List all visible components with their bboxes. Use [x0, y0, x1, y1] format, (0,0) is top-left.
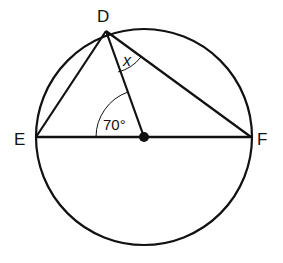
chord-DF — [106, 31, 251, 137]
center-point — [139, 132, 149, 142]
label-D: D — [97, 7, 109, 26]
angle-label-x: x — [122, 52, 132, 69]
label-F: F — [257, 130, 267, 149]
geometry-diagram: D E F 70° x — [0, 0, 283, 263]
angle-label-70: 70° — [103, 116, 126, 133]
chord-DE — [36, 31, 106, 137]
label-E: E — [14, 130, 25, 149]
